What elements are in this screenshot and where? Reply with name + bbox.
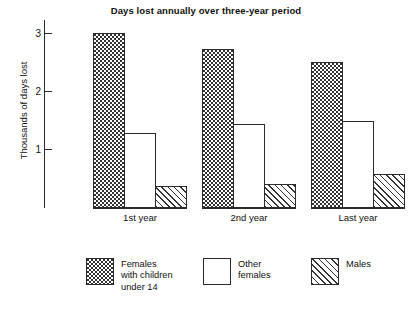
chart-legend: Females with children under 14 Other fem… <box>0 258 412 310</box>
bar-group-last-year <box>311 20 405 208</box>
category-label-1st-year: 1st year <box>93 212 187 223</box>
legend-item-males: Males <box>311 258 371 285</box>
legend-label-other-females: Other females <box>238 258 271 282</box>
bar-other-females-last-year <box>342 121 374 208</box>
bar-group-1st-year <box>93 20 187 208</box>
group-baseline-2 <box>202 207 296 208</box>
bar-chart: Days lost annually over three-year perio… <box>0 0 412 314</box>
bar-other-females-1st-year <box>124 133 156 208</box>
bar-females-with-children-1st-year <box>93 33 125 208</box>
y-tick-label-3: 3 <box>25 28 41 39</box>
bar-males-2nd-year <box>264 184 296 208</box>
legend-swatch-blank-icon <box>203 258 231 285</box>
bar-females-with-children-last-year <box>311 62 343 208</box>
legend-swatch-hatched-icon <box>311 258 339 285</box>
legend-swatch-dotted-icon <box>86 258 114 285</box>
plot-area <box>44 20 404 208</box>
y-axis-title: Thousands of days lost <box>18 36 29 186</box>
category-label-2nd-year: 2nd year <box>202 212 296 223</box>
y-tick-label-1: 1 <box>25 144 41 155</box>
group-baseline-3 <box>311 207 405 208</box>
bar-females-with-children-2nd-year <box>202 49 234 208</box>
chart-title: Days lost annually over three-year perio… <box>0 5 412 16</box>
bar-males-last-year <box>373 174 405 208</box>
legend-item-females-with-children: Females with children under 14 <box>86 258 173 293</box>
legend-item-other-females: Other females <box>203 258 271 285</box>
bar-other-females-2nd-year <box>233 124 265 208</box>
group-baseline-1 <box>93 207 187 208</box>
category-label-last-year: Last year <box>311 212 405 223</box>
y-tick-label-2: 2 <box>25 86 41 97</box>
bar-group-2nd-year <box>202 20 296 208</box>
legend-label-females-with-children: Females with children under 14 <box>121 258 173 293</box>
bar-males-1st-year <box>155 186 187 208</box>
legend-label-males: Males <box>346 258 371 270</box>
